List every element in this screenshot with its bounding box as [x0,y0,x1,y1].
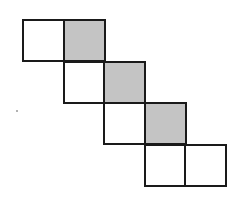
stray-mark [16,110,18,112]
plain-square [184,144,227,187]
square-staircase-diagram [0,0,248,199]
shaded-square [103,61,146,104]
shaded-square [144,102,187,145]
plain-square [144,144,187,187]
plain-square [63,61,106,104]
shaded-square [63,19,106,62]
plain-square [22,19,65,62]
plain-square [103,102,146,145]
